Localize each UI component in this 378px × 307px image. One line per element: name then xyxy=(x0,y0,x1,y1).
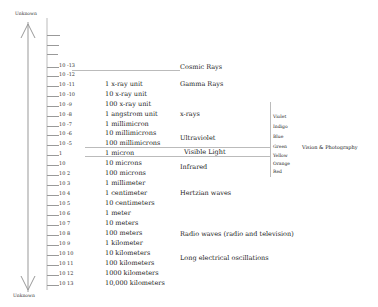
exponent-label: 10 -6 xyxy=(59,130,72,136)
band-hertzian-waves: Hertzian waves xyxy=(180,189,231,197)
scale-tick xyxy=(47,255,59,256)
scale-tick xyxy=(47,285,59,286)
exponent-label: 10 4 xyxy=(59,190,70,196)
exponent-label: 10 2 xyxy=(59,170,70,176)
exponent-label: 10 -13 xyxy=(59,62,75,68)
unit-label: 100 kilometers xyxy=(105,259,154,267)
band-gamma-rays: Gamma Rays xyxy=(180,80,223,88)
exponent-label: 10 10 xyxy=(59,250,73,256)
scale-tick xyxy=(47,76,59,77)
unit-label: 10 kilometers xyxy=(105,249,150,257)
color-red: Red xyxy=(273,169,282,174)
unit-label: 1 millimicron xyxy=(105,120,149,128)
unit-label: 10,000 kilometers xyxy=(105,279,165,287)
visible-bracket-top xyxy=(245,147,270,148)
unit-label: 10 x-ray unit xyxy=(105,90,147,98)
scale-tick xyxy=(47,86,59,87)
exponent-label: 10 12 xyxy=(59,270,73,276)
scale-tick xyxy=(47,116,59,117)
exponent-label: 10 -5 xyxy=(59,140,72,146)
scale-tick xyxy=(47,35,60,36)
exponent-label: 10 11 xyxy=(59,260,73,266)
unit-label: 1000 kilometers xyxy=(105,269,159,277)
exponent-label: 10 5 xyxy=(59,200,70,206)
exponent-label: 10 6 xyxy=(59,210,70,216)
exponent-label: 10 -11 xyxy=(59,81,75,87)
unit-label: 10 millimicrons xyxy=(105,129,156,137)
scale-tick xyxy=(47,195,59,196)
unit-label: 10 meters xyxy=(105,219,138,227)
band-radio-waves: Radio waves (radio and television) xyxy=(180,230,294,238)
scale-tick xyxy=(47,185,59,186)
scale-tick xyxy=(47,135,59,136)
color-green: Green xyxy=(273,144,287,149)
color-violet: Violet xyxy=(273,114,286,119)
unit-label: 10 microns xyxy=(105,159,142,167)
exponent-label: 10 8 xyxy=(59,230,70,236)
scale-tick xyxy=(47,215,59,216)
scale-tick xyxy=(47,106,59,107)
color-yellow: Yellow xyxy=(273,153,288,158)
exponent-label: 10 9 xyxy=(59,240,70,246)
unit-label: 1 millimeter xyxy=(105,179,145,187)
scale-tick xyxy=(47,205,59,206)
axis-top-label: Unknown xyxy=(15,11,37,16)
unit-label: 1 centimeter xyxy=(105,189,147,197)
scale-tick xyxy=(47,54,58,55)
vision-photography-label: Vision & Photography xyxy=(302,144,358,150)
unit-label: 100 microns xyxy=(105,169,146,177)
color-blue: Blue xyxy=(273,134,283,139)
scale-tick xyxy=(47,275,59,276)
scale-tick xyxy=(47,45,59,46)
unit-label: 100 x-ray unit xyxy=(105,100,151,108)
band-x-rays: x-rays xyxy=(180,110,200,118)
spectrum-axis-arrow xyxy=(0,0,60,307)
band-long-electrical: Long electrical oscillations xyxy=(180,254,269,262)
unit-label: 1 meter xyxy=(105,209,131,217)
color-orange: Orange xyxy=(273,161,290,166)
unit-label: 10 centimeters xyxy=(105,199,155,207)
band-visible-light: Visible Light xyxy=(184,148,226,156)
scale-tick xyxy=(47,155,59,156)
axis-bottom-label: Unknown xyxy=(13,293,35,298)
scale-tick xyxy=(47,126,59,127)
unit-label: 1 x-ray unit xyxy=(105,80,143,88)
unit-label: 100 millimicrons xyxy=(105,139,160,147)
exponent-label: 10 -8 xyxy=(59,111,72,117)
exponent-label: 10 xyxy=(59,160,65,166)
color-indigo: Indigo xyxy=(273,124,288,129)
scale-tick xyxy=(47,265,59,266)
unit-label: 1 angstrom unit xyxy=(105,110,158,118)
scale-tick xyxy=(47,165,59,166)
unit-label: 1 kilometer xyxy=(105,239,143,247)
exponent-label: 10 -10 xyxy=(59,91,75,97)
exponent-label: 1 xyxy=(59,150,62,156)
scale-tick xyxy=(47,175,59,176)
unit-label: 100 meters xyxy=(105,229,142,237)
band-cosmic-rays: Cosmic Rays xyxy=(180,63,222,71)
scale-tick xyxy=(47,67,59,68)
visible-bracket-line xyxy=(270,102,271,177)
scale-tick xyxy=(47,245,59,246)
visible-infrared-divider-line xyxy=(85,156,245,157)
exponent-label: 10 -12 xyxy=(59,71,75,77)
exponent-label: 10 3 xyxy=(59,180,70,186)
visible-bracket-bottom xyxy=(245,156,270,157)
exponent-label: 10 13 xyxy=(59,280,73,286)
band-ultraviolet: Ultraviolet xyxy=(180,134,215,142)
exponent-label: 10 7 xyxy=(59,220,70,226)
exponent-label: 10 -7 xyxy=(59,121,72,127)
exponent-label: 10 -9 xyxy=(59,101,72,107)
scale-tick xyxy=(47,145,59,146)
scale-tick xyxy=(47,225,59,226)
band-infrared: Infrared xyxy=(180,163,207,171)
cosmic-divider-line xyxy=(72,70,180,71)
scale-tick xyxy=(47,235,59,236)
scale-tick xyxy=(47,96,59,97)
